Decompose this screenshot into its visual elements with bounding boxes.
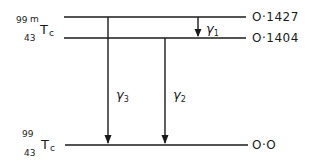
parent-symbol-T: T bbox=[40, 23, 48, 36]
decay-scheme-diagram: 99 m 43 T c 99 43 T c O·1427 O·1404 O·O … bbox=[0, 0, 318, 166]
gamma-2-index: 2 bbox=[181, 95, 186, 104]
gamma-3-index: 3 bbox=[124, 95, 129, 104]
parent-symbol-c: c bbox=[49, 29, 54, 38]
daughter-mass-number: 99 bbox=[22, 130, 33, 139]
daughter-symbol-c: c bbox=[50, 144, 55, 153]
gamma-2-label: γ2 bbox=[173, 88, 186, 104]
energy-label-1427: O·1427 bbox=[252, 11, 299, 23]
energy-label-1404: O·1404 bbox=[252, 32, 299, 44]
parent-metastable-mark: m bbox=[30, 15, 39, 24]
gamma-3-symbol: γ bbox=[116, 87, 124, 102]
gamma-1-symbol: γ bbox=[206, 21, 214, 36]
parent-atomic-number: 43 bbox=[24, 34, 35, 43]
gamma-1-index: 1 bbox=[214, 29, 219, 38]
gamma-2-symbol: γ bbox=[173, 87, 181, 102]
daughter-symbol-T: T bbox=[41, 138, 49, 151]
gamma-3-label: γ3 bbox=[116, 88, 129, 104]
energy-label-0: O·O bbox=[252, 139, 276, 151]
parent-mass-number: 99 bbox=[16, 16, 27, 25]
gamma-1-label: γ1 bbox=[206, 22, 219, 38]
daughter-atomic-number: 43 bbox=[24, 149, 35, 158]
